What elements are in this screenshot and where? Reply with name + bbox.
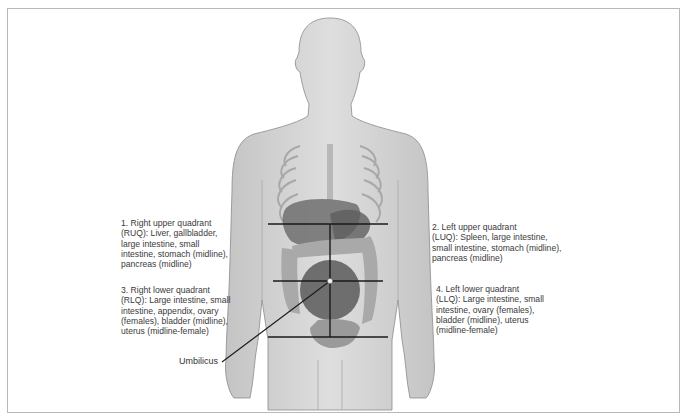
llq-label: 4. Left lower quadrant (LLQ): Large inte…	[436, 284, 544, 335]
umbilicus-label: Umbilicus	[179, 356, 218, 366]
human-torso-figure	[0, 0, 689, 420]
rlq-label: 3. Right lower quadrant (RLQ): Large int…	[121, 285, 230, 336]
umbilicus-marker	[327, 278, 332, 283]
luq-label: 2. Left upper quadrant (LUQ): Spleen, la…	[432, 222, 561, 263]
ruq-label: 1. Right upper quadrant (RUQ): Liver, ga…	[121, 218, 228, 269]
